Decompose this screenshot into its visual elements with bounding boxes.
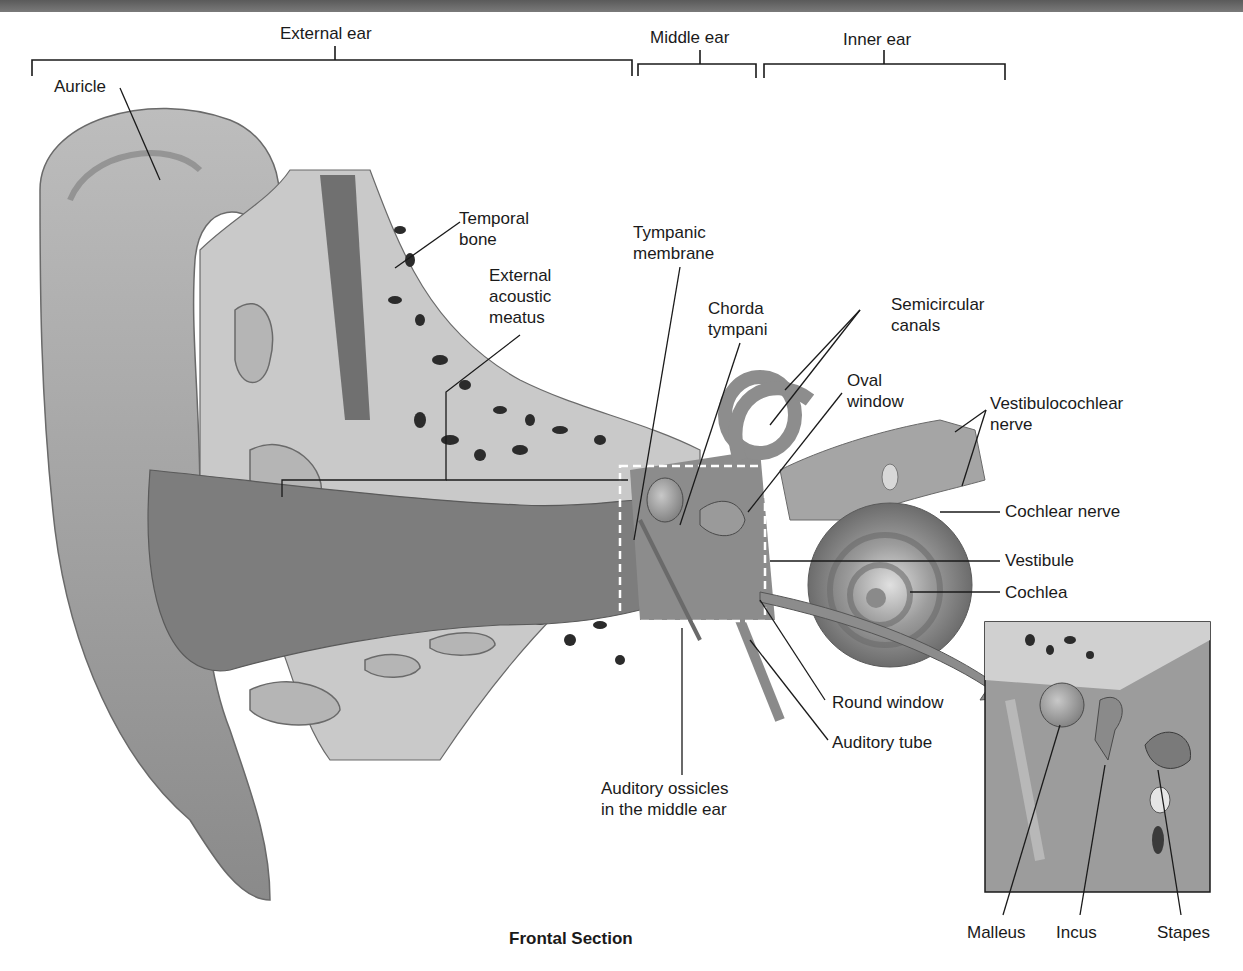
ear-anatomy-illustration <box>0 0 1243 971</box>
label-oval-window: Oval window <box>847 370 904 412</box>
inset-magnified-ossicles <box>985 622 1210 892</box>
label-auricle: Auricle <box>54 76 106 97</box>
middle-ear-structures <box>630 450 780 720</box>
label-vestibule: Vestibule <box>1005 550 1074 571</box>
figure-caption: Frontal Section <box>509 929 633 949</box>
label-malleus: Malleus <box>967 922 1026 943</box>
region-label-middle-ear: Middle ear <box>650 27 729 48</box>
label-stapes: Stapes <box>1157 922 1210 943</box>
label-vestibulocochlear-nerve: Vestibulocochlear nerve <box>990 393 1123 435</box>
label-auditory-tube: Auditory tube <box>832 732 932 753</box>
label-temporal-bone: Temporal bone <box>459 208 529 250</box>
label-semicircular-canals: Semicircular canals <box>891 294 985 336</box>
label-incus: Incus <box>1056 922 1097 943</box>
region-label-inner-ear: Inner ear <box>843 29 911 50</box>
region-label-external-ear: External ear <box>280 23 372 44</box>
label-auditory-ossicles: Auditory ossicles in the middle ear <box>601 778 729 820</box>
label-external-acoustic-meatus: External acoustic meatus <box>489 265 551 328</box>
label-tympanic-membrane: Tympanic membrane <box>633 222 714 264</box>
label-chorda-tympani: Chorda tympani <box>708 298 768 340</box>
region-brackets <box>32 46 1005 80</box>
cochlea-shape <box>808 503 972 667</box>
label-cochlear-nerve: Cochlear nerve <box>1005 501 1120 522</box>
label-round-window: Round window <box>832 692 944 713</box>
label-cochlea: Cochlea <box>1005 582 1067 603</box>
